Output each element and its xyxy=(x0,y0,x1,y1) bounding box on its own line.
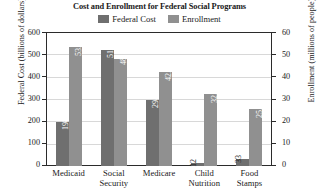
legend-label-federal-cost: Federal Cost xyxy=(112,14,156,24)
y-tick-left-0: 0 xyxy=(0,161,40,169)
tickmark-right-30 xyxy=(272,99,276,100)
y-tick-right-50: 50 xyxy=(282,51,319,59)
y-tick-left-400: 400 xyxy=(0,73,40,81)
chart-container: Cost and Enrollment for Federal Social P… xyxy=(0,0,319,196)
y-tick-right-40: 40 xyxy=(282,73,319,81)
tickmark-right-40 xyxy=(272,76,276,77)
y-axis-left-title: Federal Cost (billions of dollars) xyxy=(17,0,26,127)
x-label-food-stamps-line1: Food xyxy=(227,168,272,178)
x-label-social-security-line2: Security xyxy=(91,178,136,188)
tickmark-right-60 xyxy=(272,32,276,33)
x-label-medicare-line1: Medicare xyxy=(136,168,181,178)
x-label-food-stamps-line2: Stamps xyxy=(227,178,272,188)
y-tick-right-10: 10 xyxy=(282,139,319,147)
legend-swatch-federal-cost xyxy=(98,15,109,23)
x-label-medicaid-line1: Medicaid xyxy=(46,168,91,178)
x-label-food-stamps: Food Stamps xyxy=(227,168,272,188)
tickmark-right-10 xyxy=(272,143,276,144)
chart-title: Cost and Enrollment for Federal Social P… xyxy=(0,2,319,11)
y-tick-left-600: 600 xyxy=(0,29,40,37)
x-label-social-security: Social Security xyxy=(91,168,136,188)
y-tick-right-20: 20 xyxy=(282,117,319,125)
y-tick-left-200: 200 xyxy=(0,117,40,125)
tickmark-right-0 xyxy=(272,165,276,166)
tickmark-right-50 xyxy=(272,54,276,55)
y-tick-left-300: 300 xyxy=(0,95,40,103)
legend-label-enrollment: Enrollment xyxy=(182,14,221,24)
x-label-child-nutrition-line1: Child xyxy=(182,168,227,178)
x-label-child-nutrition: Child Nutrition xyxy=(182,168,227,188)
y-tick-right-60: 60 xyxy=(282,29,319,37)
y-tick-left-100: 100 xyxy=(0,139,40,147)
gridline-300 xyxy=(47,99,271,100)
y-tick-right-30: 30 xyxy=(282,95,319,103)
plot-area xyxy=(46,32,272,166)
y-tick-left-500: 500 xyxy=(0,51,40,59)
gridline-400 xyxy=(47,77,271,78)
x-label-social-security-line1: Social xyxy=(91,168,136,178)
x-label-medicaid: Medicaid xyxy=(46,168,91,188)
gridline-100 xyxy=(47,144,271,145)
x-label-medicare: Medicare xyxy=(136,168,181,188)
y-tick-right-0: 0 xyxy=(282,161,319,169)
gridline-500 xyxy=(47,54,271,55)
tickmark-right-20 xyxy=(272,121,276,122)
legend-swatch-enrollment xyxy=(168,15,179,23)
x-label-child-nutrition-line2: Nutrition xyxy=(182,178,227,188)
legend-item-federal-cost: Federal Cost xyxy=(98,14,156,24)
legend-item-enrollment: Enrollment xyxy=(168,14,221,24)
x-axis-labels: Medicaid Social Security Medicare Child … xyxy=(46,168,272,188)
gridline-200 xyxy=(47,121,271,122)
chart-legend: Federal Cost Enrollment xyxy=(0,14,319,24)
y-axis-right-title: Enrollment (millions of people) xyxy=(307,0,316,126)
